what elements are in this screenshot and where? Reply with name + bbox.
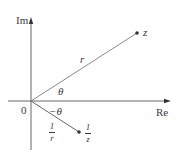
reciprocal-modulus-label: 1 r — [49, 122, 55, 143]
z-label: z — [143, 27, 147, 38]
real-axis-arrow-icon — [164, 99, 171, 103]
fraction-denominator: r — [50, 134, 54, 143]
im-axis-label: Im — [16, 15, 28, 26]
z-segment — [31, 33, 137, 101]
z-point — [135, 31, 139, 35]
fraction-numerator: 1 — [86, 123, 91, 132]
r-label: r — [80, 54, 84, 65]
re-axis-label: Re — [156, 107, 168, 118]
fraction-denominator: z — [86, 135, 90, 144]
fraction-numerator: 1 — [50, 122, 55, 131]
origin-label: 0 — [21, 105, 27, 116]
reciprocal-point-label: 1 z — [85, 123, 91, 144]
imaginary-axis-arrow-icon — [29, 17, 33, 24]
theta-label: θ — [58, 86, 63, 97]
reciprocal-point — [77, 130, 81, 134]
neg-theta-label: −θ — [49, 106, 62, 117]
